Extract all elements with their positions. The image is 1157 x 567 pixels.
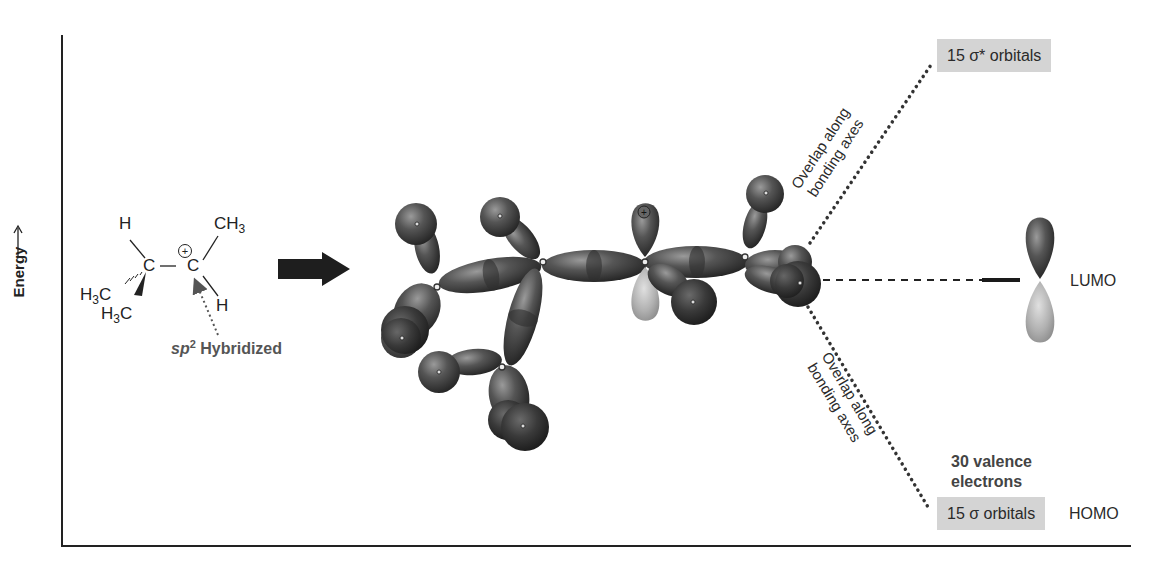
atom-h-top: H	[119, 214, 131, 234]
orbital-model: +	[381, 175, 821, 451]
lumo-p-orbital	[1026, 218, 1055, 343]
lumo-label: LUMO	[1070, 272, 1116, 290]
reaction-arrow-icon	[278, 252, 350, 286]
hashed-bond	[125, 272, 142, 284]
atom-c-left: C	[143, 256, 155, 276]
valence-line-1: 30 valence	[951, 452, 1032, 472]
h3c-left-c: C	[99, 285, 111, 304]
atom-c-cation: C	[187, 256, 199, 276]
valence-line-2: electrons	[951, 472, 1032, 492]
valence-electrons-label: 30 valenceelectrons	[951, 452, 1032, 492]
h3c-bottom-c: C	[120, 304, 132, 323]
ch3-subscript: 3	[239, 222, 246, 236]
sp2-hybridized-label: sp2 Hybridized	[171, 338, 282, 358]
h3c-left-sub: 3	[92, 293, 99, 307]
h3c-left-h: H	[80, 285, 92, 304]
energy-axis-label: Energy	[10, 247, 27, 298]
sigma-orbitals-box: 15 σ orbitals	[937, 497, 1045, 530]
atom-h-bottom: H	[216, 296, 228, 316]
sigma-star-orbitals-box: 15 σ* orbitals	[937, 39, 1051, 72]
sp-text: sp	[171, 340, 190, 357]
cation-charge-icon: +	[178, 244, 192, 258]
h3c-bottom-h: H	[101, 304, 113, 323]
atom-ch3-top: CH3	[214, 214, 245, 236]
atom-h3c-bottom: H3C	[101, 304, 132, 326]
ch3-text: CH	[214, 214, 239, 233]
svg-text:+: +	[641, 207, 647, 218]
homo-label: HOMO	[1069, 505, 1119, 523]
hybridized-text: Hybridized	[196, 340, 282, 357]
h3c-bottom-sub: 3	[113, 312, 120, 326]
